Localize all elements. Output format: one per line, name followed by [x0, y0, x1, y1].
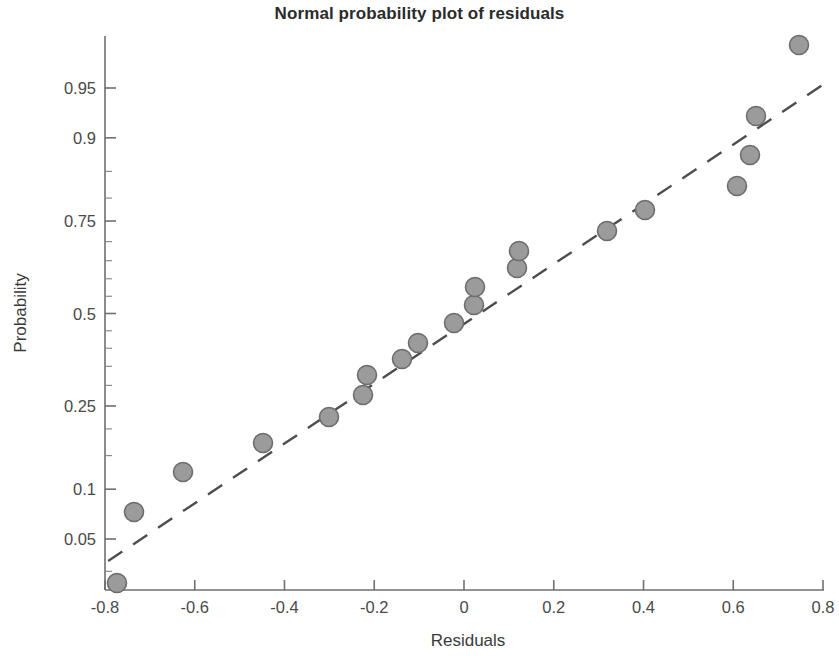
y-tick-label-0.75: 0.75 [64, 212, 96, 230]
x-tick-label--0.4: -0.4 [270, 598, 298, 616]
x-tick-label--0.8: -0.8 [91, 598, 119, 616]
x-axis-title: Residuals [431, 631, 506, 650]
normal-probability-plot: Normal probability plot of residuals 0.0… [0, 0, 839, 656]
y-tick-label-0.5: 0.5 [73, 305, 96, 323]
x-tick-label-0.4: 0.4 [632, 598, 655, 616]
plot-canvas: 0.050.10.250.50.750.90.95 -0.8-0.6-0.4-0… [0, 0, 839, 656]
y-tick-label-0.1: 0.1 [73, 480, 96, 498]
data-point [465, 296, 484, 315]
x-axis-tick-labels: -0.8-0.6-0.4-0.200.20.40.60.8 [91, 598, 835, 616]
x-tick-label-0.2: 0.2 [542, 598, 565, 616]
data-point [393, 350, 412, 369]
x-tick-label--0.2: -0.2 [360, 598, 388, 616]
y-axis-tick-labels: 0.050.10.250.50.750.90.95 [64, 79, 96, 548]
data-point [636, 201, 655, 220]
data-point [741, 146, 760, 165]
data-point [320, 408, 339, 427]
y-axis-major-ticks [105, 88, 116, 539]
data-point [747, 107, 766, 126]
data-point [728, 177, 747, 196]
y-tick-label-0.05: 0.05 [64, 530, 96, 548]
data-point [108, 574, 127, 593]
x-tick-label--0.6: -0.6 [181, 598, 209, 616]
data-point [409, 334, 428, 353]
data-point-group [108, 36, 809, 593]
data-point [445, 314, 464, 333]
y-tick-label-0.25: 0.25 [64, 397, 96, 415]
data-point [254, 434, 273, 453]
y-axis-title: Probability [11, 273, 30, 353]
data-point [598, 222, 617, 241]
data-point [790, 36, 809, 55]
data-point [174, 463, 193, 482]
y-tick-label-0.9: 0.9 [73, 129, 96, 147]
data-point [354, 386, 373, 405]
x-axis-major-ticks [105, 580, 823, 590]
y-axis-minor-ticks [105, 171, 112, 571]
y-tick-label-0.95: 0.95 [64, 79, 96, 97]
x-tick-label-0.6: 0.6 [722, 598, 745, 616]
data-point [510, 242, 529, 261]
reference-line [108, 85, 822, 561]
data-point [508, 259, 527, 278]
x-tick-label-0.8: 0.8 [812, 598, 835, 616]
x-tick-label-0: 0 [459, 598, 468, 616]
data-point [466, 278, 485, 297]
data-point [358, 366, 377, 385]
data-point [125, 503, 144, 522]
